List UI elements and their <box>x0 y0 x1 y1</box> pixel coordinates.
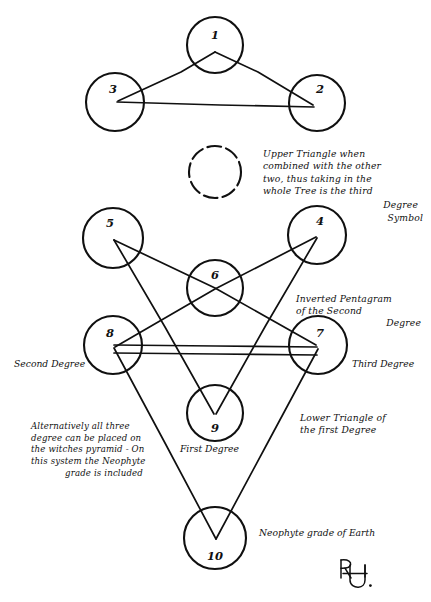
second-degree-label: Second Degree <box>14 358 85 369</box>
inverted-pentagram-paths <box>114 237 317 414</box>
path-8-to-7-upper <box>114 345 317 347</box>
path-1-to-2 <box>215 52 313 105</box>
third-degree-label: Third Degree <box>352 358 414 369</box>
sphere-6-number: 6 <box>211 268 219 282</box>
path-8-to-7-lower <box>114 353 317 355</box>
diagram-page: 1 2 3 4 5 6 7 8 9 10 Upper Triangle when… <box>0 0 431 602</box>
lower-triangle-note: Lower Triangle of the first Degree <box>300 412 431 437</box>
upper-triangle-note-tail-1: Degree <box>263 199 418 211</box>
sphere-daath-circle[interactable] <box>189 146 241 198</box>
inverted-pentagram-note: Inverted Pentagram of the Second <box>296 293 431 318</box>
sphere-numbers-group: 1 2 3 4 5 6 7 8 9 10 <box>106 28 324 563</box>
sphere-5-number: 5 <box>106 216 114 230</box>
inverted-pentagram-note-tail: Degree <box>296 317 421 329</box>
path-3-to-2 <box>117 102 314 107</box>
sphere-1-number: 1 <box>211 28 219 42</box>
sphere-9-number: 9 <box>211 421 219 435</box>
sphere-3-number: 3 <box>109 82 117 96</box>
signature-monogram <box>335 556 375 590</box>
first-degree-label: First Degree <box>180 443 239 454</box>
upper-triangle-paths <box>117 52 314 107</box>
witches-pyramid-note-tail: grade is included <box>31 468 177 480</box>
sphere-10-number: 10 <box>207 549 223 563</box>
path-1-to-3 <box>118 52 215 101</box>
neophyte-label: Neophyte grade of Earth <box>259 527 375 538</box>
upper-triangle-note: Upper Triangle when combined with the ot… <box>263 148 431 198</box>
sphere-1-circle[interactable] <box>187 17 243 73</box>
upper-triangle-note-tail-2: Symbol <box>263 212 423 224</box>
sphere-2-number: 2 <box>315 82 324 96</box>
witches-pyramid-note: Alternatively all three degree can be pl… <box>31 421 177 467</box>
sphere-8-number: 8 <box>106 326 114 340</box>
